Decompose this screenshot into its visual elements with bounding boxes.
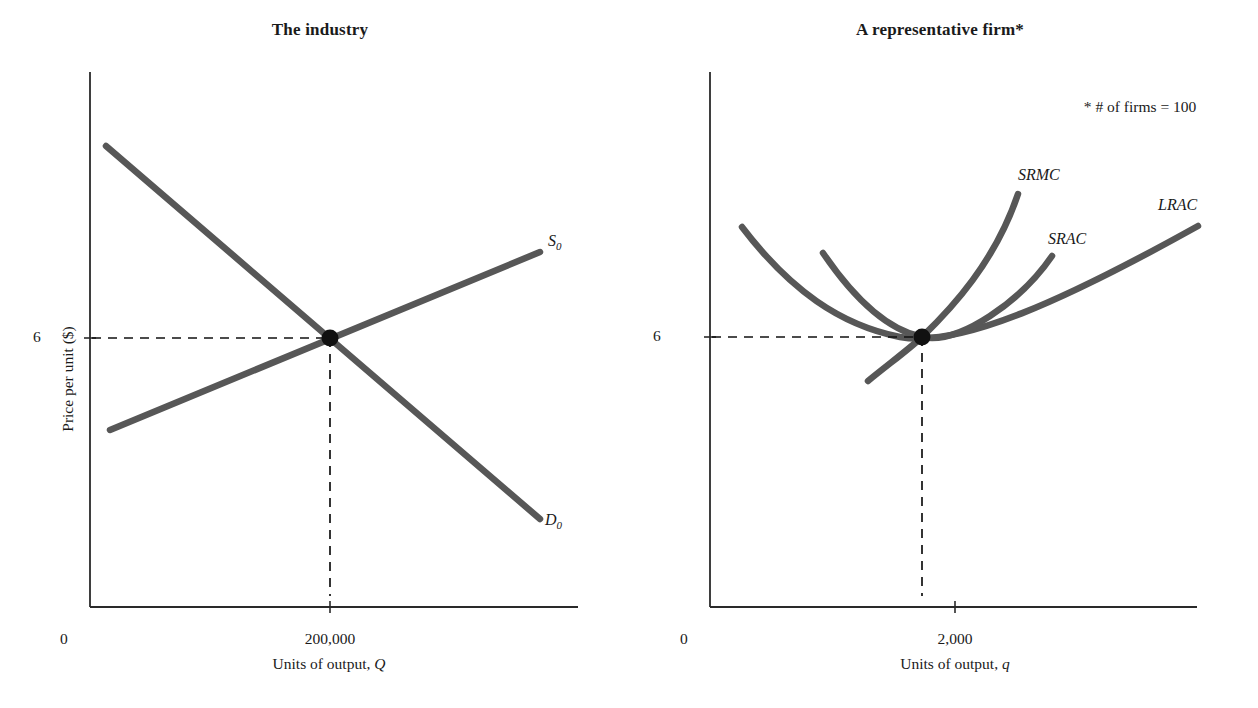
x-axis-label-firm: Units of output, q bbox=[860, 655, 1050, 673]
curve-label-lrac: LRAC bbox=[1158, 196, 1197, 214]
x-axis-label-firm-text: Units of output, bbox=[900, 655, 1002, 672]
origin-label-firm: 0 bbox=[680, 630, 688, 648]
curve-label-srac: SRAC bbox=[1048, 230, 1086, 248]
right-axes bbox=[704, 72, 1197, 613]
figure-canvas: The industry A representative firm* * # … bbox=[0, 0, 1258, 708]
curve-srmc bbox=[868, 194, 1018, 381]
right-panel-graphics bbox=[0, 0, 1258, 708]
curve-label-srmc: SRMC bbox=[1018, 166, 1060, 184]
x-axis-symbol-firm: q bbox=[1002, 655, 1010, 672]
right-equilibrium-guides bbox=[712, 337, 922, 596]
tangency-point-firm bbox=[914, 329, 931, 346]
y-tick-label-6-firm: 6 bbox=[653, 327, 661, 345]
x-tick-label-2000: 2,000 bbox=[900, 630, 1010, 648]
